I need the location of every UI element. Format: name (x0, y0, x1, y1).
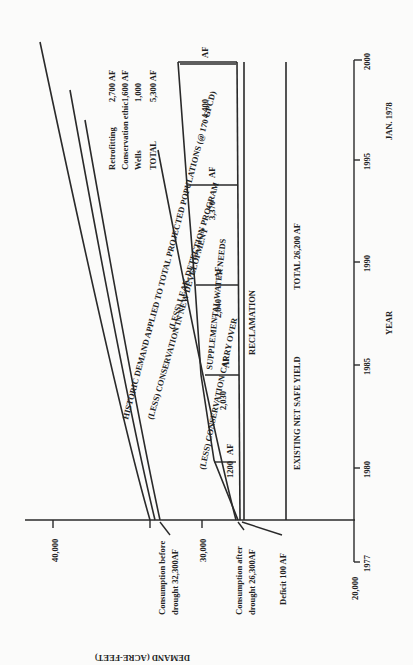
xtick-1990: 1990 (362, 255, 372, 272)
leader-after (238, 522, 244, 530)
x-axis-label: YEAR (384, 310, 394, 335)
y-axis-label: DEMAND (ACRE-FEET) (95, 653, 190, 663)
ytick-40000: 40,000 (50, 539, 60, 562)
label-reclamation: RECLAMATION (247, 289, 257, 355)
xtick-2000: 2000 (362, 53, 372, 70)
gap-2000: 4,400 (200, 99, 210, 118)
table-retrofitting-label: Retrofitting (107, 126, 117, 170)
leader-deficit (242, 522, 282, 535)
table-retrofitting-value: 2,700 AF (107, 70, 117, 102)
gap-1985-unit: AF (221, 357, 231, 368)
xtick-1995: 1995 (362, 153, 372, 170)
gap-1995: 3,370 (207, 201, 217, 220)
label-safe-yield: EXISTING NET SAFE YIELD (292, 356, 302, 470)
annot-after-1: Consumption after (234, 546, 244, 615)
line-historic-demand (40, 42, 150, 520)
table-wells-value: 1,000 (133, 83, 143, 102)
gap-1990-unit: AF (213, 267, 223, 278)
xtick-1980: 1980 (362, 461, 372, 478)
gap-1980-unit: AF (225, 444, 235, 455)
chart-figure: HISTORIC DEMAND APPLIED TO TOTAL PROJECT… (0, 0, 413, 665)
leader-before (160, 522, 170, 535)
date-note: JAN. 1978 (384, 102, 394, 140)
gap-2000-unit: AF (200, 47, 210, 58)
label-total-26200: TOTAL 26,200 AF (292, 223, 302, 290)
table-wells-label: Wells (133, 149, 143, 170)
line-reclamation (237, 62, 240, 520)
annot-deficit: Deficit 100 AF (278, 553, 288, 605)
ytick-30000: 30,000 (198, 539, 208, 562)
table-ethic-value: 1,600 AF (120, 70, 130, 102)
gap-1990: 2,840 (213, 299, 223, 318)
gap-1980: 1200 (225, 461, 235, 478)
xtick-1977: 1977 (362, 554, 372, 572)
chart-svg: HISTORIC DEMAND APPLIED TO TOTAL PROJECT… (0, 0, 413, 665)
table-total-value: 5,300 AF (148, 70, 158, 102)
table-ethic-label: Conservation ethic (120, 102, 130, 170)
annot-after-2: drought 26,300AF (247, 549, 257, 615)
annot-before-1: Consumption before (157, 541, 167, 615)
gap-1985: 2,030 (218, 391, 228, 410)
annot-before-2: drought 32,300AF (170, 549, 180, 615)
ytick-20000: 20,000 (350, 577, 360, 600)
xtick-1985: 1985 (362, 358, 372, 375)
gap-1995-unit: AF (207, 167, 217, 178)
table-total-label: TOTAL (148, 141, 158, 170)
